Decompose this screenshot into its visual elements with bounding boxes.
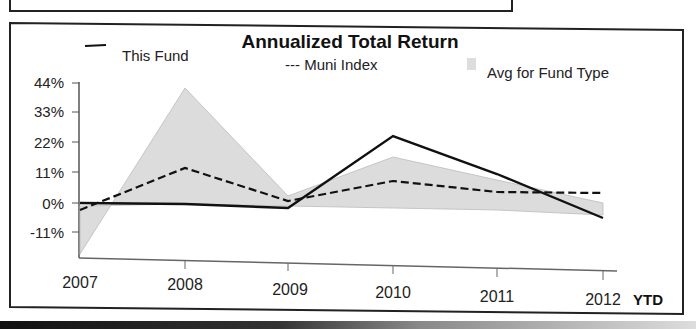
y-tick-label: 22% <box>34 134 64 151</box>
legend-area-swatch-icon <box>467 58 476 70</box>
legend-solid-line-icon <box>85 45 106 46</box>
x-ticks <box>185 261 603 280</box>
y-tick-label: -11% <box>30 224 64 241</box>
y-tick-labels: 44% 33% 22% 11% 0% -11% <box>30 74 64 241</box>
chart-title: Annualized Total Return <box>241 31 458 52</box>
x-tick-label: 2009 <box>272 281 308 298</box>
y-tick-label: 0% <box>42 195 64 212</box>
x-tick-label: 2010 <box>375 284 411 301</box>
legend-this-fund: This Fund <box>122 47 189 64</box>
x-tick-label: 2008 <box>167 276 203 293</box>
y-tick-label: 33% <box>34 103 64 120</box>
x-tick-label: 2007 <box>62 274 98 291</box>
y-tick-label: 44% <box>34 74 64 91</box>
x-tick-label: 2011 <box>480 288 515 305</box>
bottom-edge-shadow <box>0 321 696 329</box>
legend-avg-fund-type: Avg for Fund Type <box>487 64 609 81</box>
x-tick-labels: 2007 2008 2009 2010 2011 2012 <box>62 274 621 308</box>
x-axis <box>79 258 617 271</box>
y-ticks <box>72 83 79 232</box>
y-tick-label: 11% <box>35 164 64 181</box>
ytd-label: YTD <box>633 291 663 308</box>
chart-svg: Annualized Total Return This Fund --- Mu… <box>0 0 696 329</box>
x-tick-label: 2012 <box>585 291 621 308</box>
legend-muni-index: --- Muni Index <box>285 56 378 73</box>
